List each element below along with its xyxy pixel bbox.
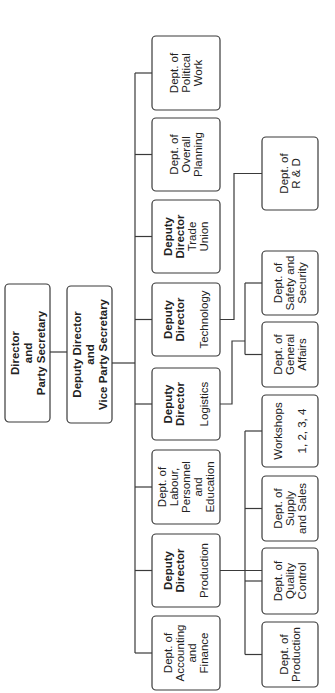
node-label-line: and Sales xyxy=(296,483,308,534)
node-label-line: 1, 2, 3, 4 xyxy=(296,408,308,453)
node-label-line: Workshops xyxy=(272,402,284,460)
node-label-line: Logistics xyxy=(198,381,210,426)
node-dept-safety: Dept. ofSafety andSecurity xyxy=(262,251,318,315)
node-dept-accounting: Dept. ofAccountingandFinance xyxy=(152,616,220,690)
node-label-line: Personnel xyxy=(180,461,192,513)
node-label-line: Accounting xyxy=(174,625,186,682)
node-label-line: Deputy Director xyxy=(71,311,83,398)
node-deputy-director-vps: Deputy DirectorandVice Party Secretary xyxy=(67,286,112,423)
node-box xyxy=(262,395,318,467)
node-label-line: Dept. of xyxy=(278,153,290,194)
node-label-line: Dept. of xyxy=(162,632,174,673)
node-label-line: Political xyxy=(180,53,192,93)
node-label-line: Director xyxy=(174,214,186,259)
node-label-line: Dept. of xyxy=(272,488,284,529)
node-dept-general-affairs: Dept. ofGeneralAffairs xyxy=(262,322,318,387)
edge-logistics-to-subbus xyxy=(220,341,245,404)
node-label-line: Director xyxy=(174,297,186,342)
node-label-line: Control xyxy=(296,562,308,599)
node-label-line: Deputy xyxy=(162,299,174,339)
node-label-line: Dept. of xyxy=(168,134,180,175)
node-label-line: and xyxy=(22,343,34,363)
node-label-line: Dept. of xyxy=(168,52,180,93)
node-label-line: and xyxy=(192,477,204,496)
node-dept-quality-control: Dept. ofQualityControl xyxy=(262,548,318,614)
node-dd-logistics: DeputyDirectorLogistics xyxy=(152,368,220,440)
node-director: DirectorandParty Secretary xyxy=(5,284,50,422)
node-label-line: Technology xyxy=(198,290,210,348)
node-label-line: Finance xyxy=(198,633,210,674)
node-label-line: Dept. of xyxy=(278,634,290,675)
node-dept-political-work: Dept. ofPoliticalWork xyxy=(152,36,220,110)
node-label-line: Trade xyxy=(186,222,198,252)
node-label-line: General xyxy=(284,334,296,375)
node-label-line: Labour, xyxy=(168,468,180,506)
node-label-line: Dept. of xyxy=(272,262,284,303)
edge-technology-to-rd xyxy=(220,174,262,320)
node-label-line: Affairs xyxy=(296,338,308,371)
node-label-line: Director xyxy=(174,381,186,426)
node-dept-production: Dept. ofProduction xyxy=(262,622,318,687)
node-dept-labour: Dept. ofLabour,PersonnelandEducation xyxy=(152,450,220,524)
org-nodes: DirectorandParty SecretaryDeputy Directo… xyxy=(5,36,318,690)
node-label-line: Party Secretary xyxy=(35,310,47,395)
node-dd-technology: DeputyDirectorTechnology xyxy=(152,283,220,356)
node-dept-rd: Dept. ofR & D xyxy=(262,137,318,210)
node-label-line: Quality xyxy=(284,563,296,599)
node-label-line: Planning xyxy=(192,132,204,177)
node-label-line: Education xyxy=(204,461,216,512)
node-label-line: Safety and xyxy=(284,256,296,311)
node-dept-overall-planning: Dept. ofOverallPlanning xyxy=(152,118,220,191)
org-chart: DirectorandParty SecretaryDeputy Directo… xyxy=(0,0,335,693)
node-label-line: Union xyxy=(198,221,210,251)
node-workshops: Workshops1, 2, 3, 4 xyxy=(262,395,318,467)
node-label-line: Director xyxy=(174,548,186,593)
node-label-line: Dept. of xyxy=(272,560,284,601)
node-label-line: Deputy xyxy=(162,550,174,590)
node-label-line: Dept. of xyxy=(156,466,168,507)
node-dept-supply-sales: Dept. ofSupplyand Sales xyxy=(262,476,318,541)
node-label-line: Work xyxy=(192,59,204,86)
node-label-line: Production xyxy=(290,627,302,682)
node-label-line: Security xyxy=(296,262,308,304)
node-label-line: R & D xyxy=(290,158,302,189)
node-label-line: Overall xyxy=(180,136,192,172)
node-dd-production: DeputyDirectorProduction xyxy=(152,534,220,607)
node-label-line: Deputy xyxy=(162,384,174,424)
node-label-line: Vice Party Secretary xyxy=(97,298,109,410)
node-label-line: Director xyxy=(9,330,21,375)
node-label-line: Production xyxy=(198,543,210,598)
node-dd-trade-union: DeputyDirectorTradeUnion xyxy=(152,200,220,273)
node-label-line: Supply xyxy=(284,491,296,526)
node-label-line: Dept. of xyxy=(272,334,284,375)
node-label-line: and xyxy=(186,643,198,662)
node-label-line: and xyxy=(84,344,96,364)
node-label-line: Deputy xyxy=(162,216,174,256)
